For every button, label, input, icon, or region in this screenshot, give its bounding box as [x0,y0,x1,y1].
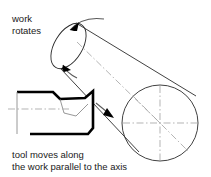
rotation-direction-arrow-secondary [62,65,77,78]
end-face-diagonal-line [133,96,188,151]
rotation-label-line1: work [11,13,32,24]
turning-operation-diagram: work rotates tool moves along the work p… [0,0,211,177]
workpiece-top-edge [76,23,196,96]
workpiece-left-end-cap [44,17,94,74]
diagram-canvas: work rotates tool moves along the work p… [0,0,211,177]
cylindrical-workpiece [44,17,198,161]
rotation-arrow-secondary-head [62,65,71,72]
cutting-tool-outline [17,91,93,134]
rotation-direction-arrow [70,18,104,31]
rotation-label-line2: rotates [12,25,41,36]
feed-label-line1: tool moves along [12,149,84,160]
feed-label-line2: the work parallel to the axis [12,161,127,172]
cutting-tool [8,91,93,134]
